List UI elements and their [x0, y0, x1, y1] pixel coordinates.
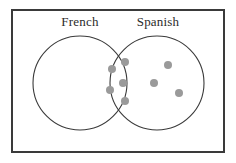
- data-dot-both: [121, 97, 129, 105]
- venn-diagram-canvas: French Spanish: [0, 0, 236, 163]
- data-dot-both: [108, 65, 116, 73]
- data-dot-both: [106, 86, 114, 94]
- data-dot-spanish_only: [175, 89, 183, 97]
- data-dot-spanish_only: [150, 79, 158, 87]
- set-label-french: French: [61, 14, 99, 29]
- set-label-spanish: Spanish: [137, 14, 180, 29]
- data-dot-both: [119, 79, 127, 87]
- data-dot-both: [121, 58, 129, 66]
- venn-diagram-figure: French Spanish: [0, 0, 236, 163]
- data-dot-spanish_only: [164, 61, 172, 69]
- universal-set-rectangle: [12, 10, 224, 152]
